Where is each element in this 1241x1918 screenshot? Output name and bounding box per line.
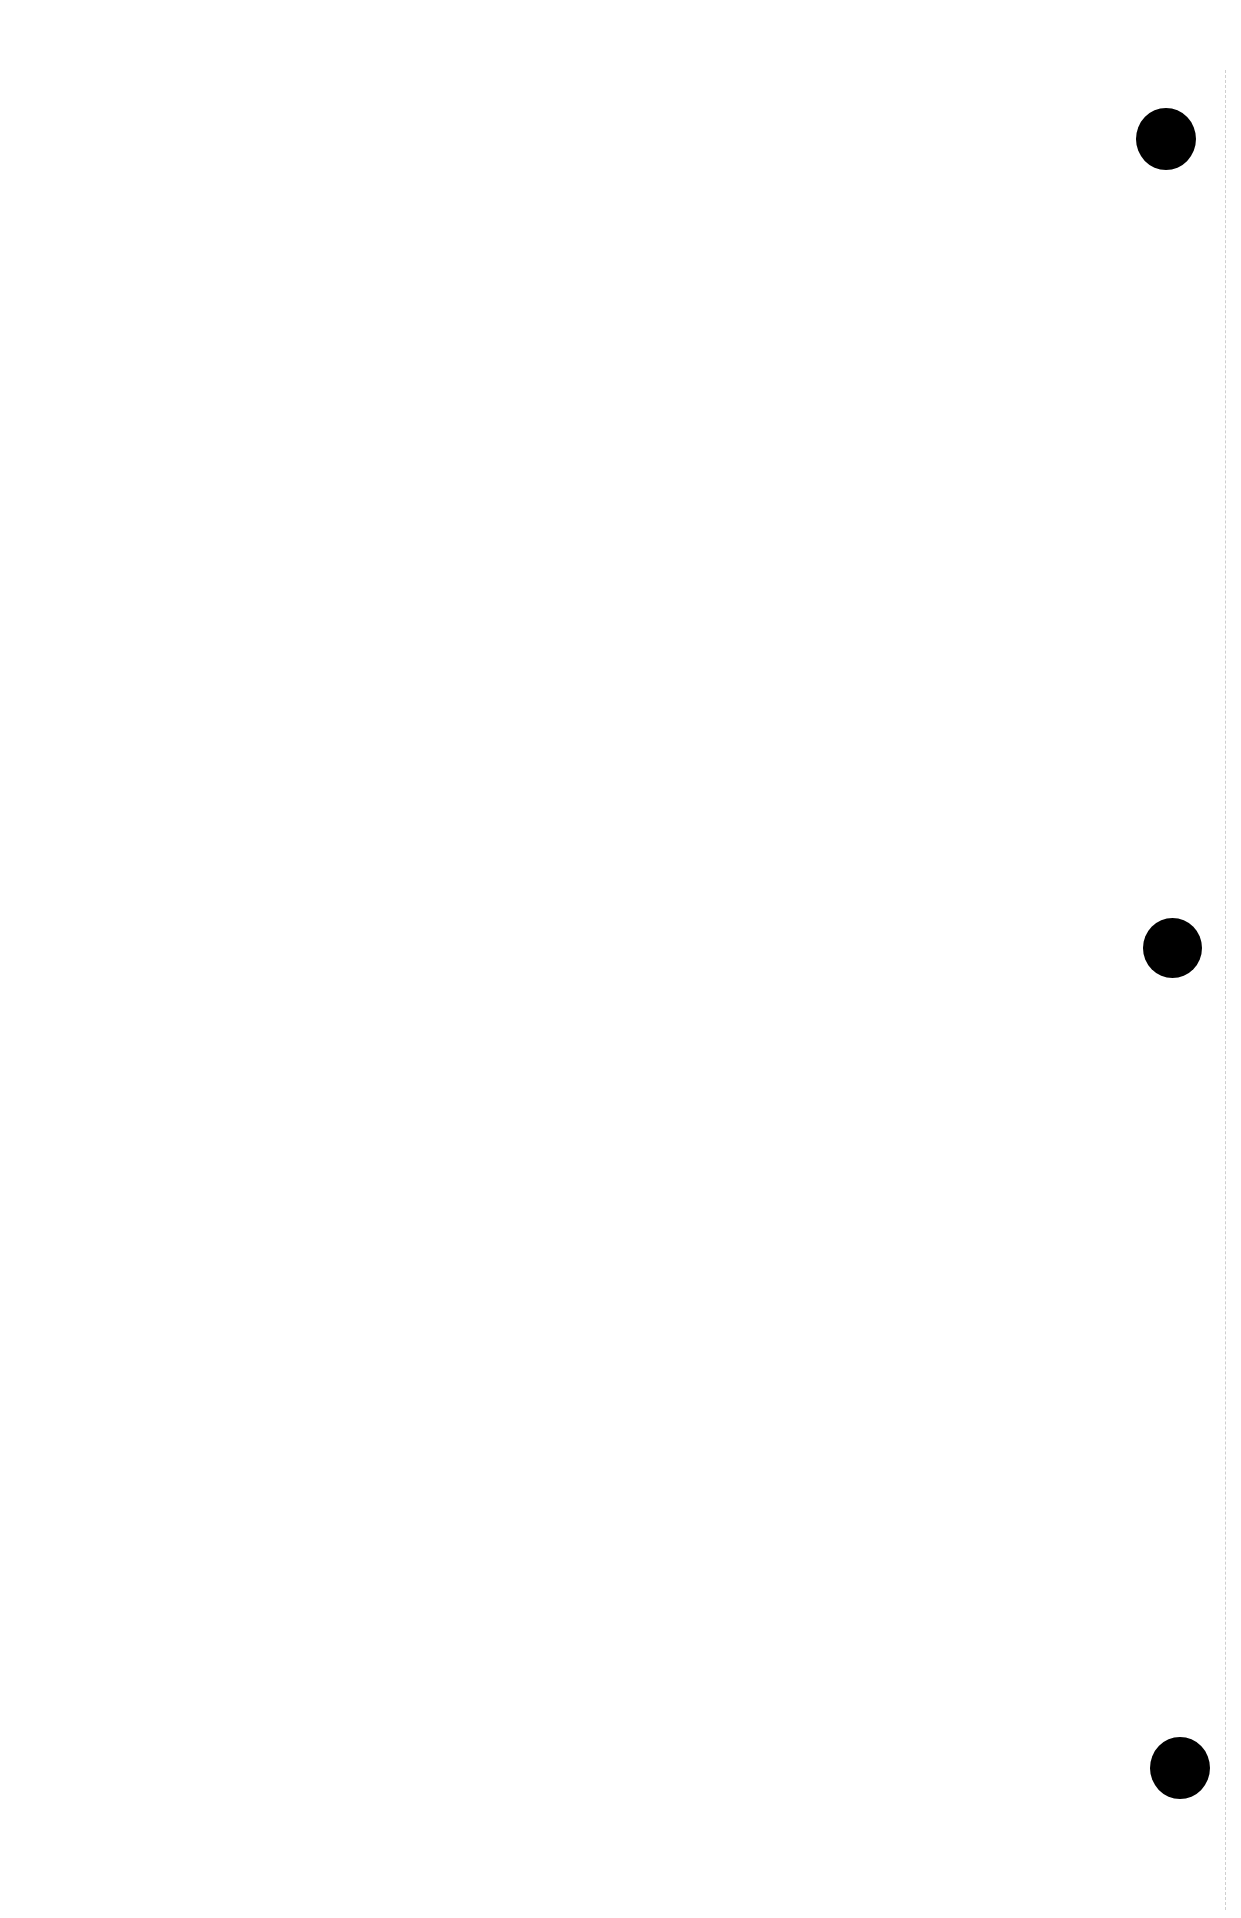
punch-hole-top [1136, 108, 1196, 170]
blank-page [0, 0, 1241, 1918]
punch-hole-bottom [1150, 1737, 1210, 1799]
perforation-line [1225, 70, 1226, 1910]
punch-hole-middle [1143, 918, 1202, 978]
